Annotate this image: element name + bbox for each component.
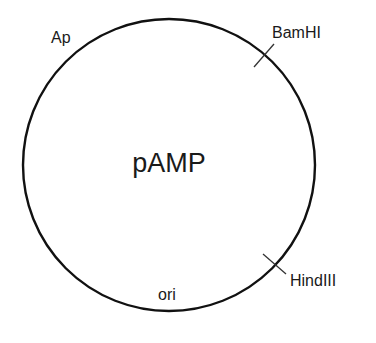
plasmid-map: pAMP Ap ori BamHI HindIII bbox=[0, 0, 376, 343]
site-label-bamhi: BamHI bbox=[272, 24, 321, 41]
feature-label-ap: Ap bbox=[51, 29, 71, 46]
site-label-hindiii: HindIII bbox=[290, 272, 336, 289]
feature-label-ori: ori bbox=[158, 286, 176, 303]
plasmid-name: pAMP bbox=[132, 148, 206, 178]
